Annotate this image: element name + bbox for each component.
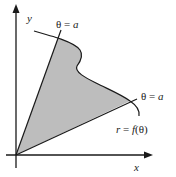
polar-region-diagram: y x θ = a θ = a r = f(θ)	[0, 0, 176, 177]
y-axis-arrow-icon	[13, 4, 20, 13]
ray-upper-label: θ = a	[56, 18, 79, 30]
x-axis-arrow-icon	[144, 152, 153, 159]
curve-label: r = f(θ)	[116, 123, 148, 136]
ray-lower-label: θ = a	[141, 90, 164, 102]
y-axis-label: y	[26, 12, 32, 24]
x-axis-label: x	[133, 161, 139, 173]
shaded-region	[16, 38, 130, 155]
